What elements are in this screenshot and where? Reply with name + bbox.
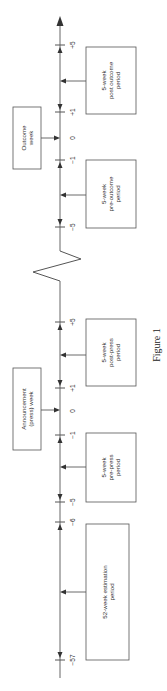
- svg-text:5-week: 5-week: [100, 70, 107, 91]
- outcome-week-box: Outcome week: [13, 107, 41, 169]
- svg-text:pre-outcome: pre-outcome: [107, 176, 114, 211]
- box-connectors: [41, 79, 86, 595]
- svg-text:period: period: [114, 71, 121, 89]
- tick-label-press-zero: 0: [69, 409, 76, 413]
- tick-label-outcome-p5: +5: [69, 41, 76, 49]
- tick-label-press-m1: −1: [69, 431, 76, 439]
- tick-label-press-m6: −6: [69, 518, 76, 526]
- tick-label-outcome-m1: −1: [69, 156, 76, 164]
- svg-text:pre-press: pre-press: [107, 454, 114, 480]
- svg-text:post-press: post-press: [107, 338, 114, 367]
- post-press-period-box: 5-week post-press period: [86, 319, 136, 386]
- tick-label-press-m5: −5: [69, 498, 76, 506]
- figure-caption: Figure 1: [151, 328, 162, 362]
- tick-labels: +5 +1 0 −1 −5 +5 +1 0 −1 −5 −6 −57: [69, 41, 76, 666]
- svg-text:5-week: 5-week: [100, 457, 107, 478]
- tick-label-press-p5: +5: [69, 318, 76, 326]
- svg-text:5-week: 5-week: [100, 342, 107, 363]
- svg-text:5-week: 5-week: [100, 183, 107, 204]
- tick-label-outcome-m5: −5: [69, 223, 76, 231]
- pre-outcome-period-box: 5-week pre-outcome period: [86, 160, 136, 228]
- svg-text:Announcement: Announcement: [20, 388, 27, 430]
- announcement-press-week-box: Announcement (press) week: [13, 368, 41, 450]
- tick-label-outcome-zero: 0: [69, 136, 76, 140]
- pre-press-period-box: 5-week pre-press period: [86, 433, 136, 502]
- post-outcome-period-box: 5-week post outcome period: [86, 47, 136, 114]
- svg-text:period: period: [114, 343, 121, 361]
- tick-label-outcome-p1: +1: [69, 108, 76, 116]
- svg-text:post outcome: post outcome: [107, 61, 114, 99]
- svg-text:52-week estimation: 52-week estimation: [101, 565, 108, 619]
- svg-text:period: period: [108, 583, 115, 601]
- event-study-timeline-diagram: +5 +1 0 −1 −5 +5 +1 0 −1 −5 −6 −57 5-wee…: [0, 0, 167, 691]
- tick-label-press-p1: +1: [69, 384, 76, 392]
- svg-text:period: period: [114, 458, 121, 476]
- estimation-period-box: 52-week estimation period: [86, 524, 129, 660]
- svg-text:(press) week: (press) week: [27, 390, 34, 426]
- svg-text:Outcome: Outcome: [20, 125, 27, 151]
- svg-text:week: week: [27, 130, 34, 146]
- tick-label-press-m57: −57: [69, 654, 76, 665]
- svg-text:period: period: [114, 185, 121, 203]
- axis-arrowhead-icon: [57, 16, 64, 26]
